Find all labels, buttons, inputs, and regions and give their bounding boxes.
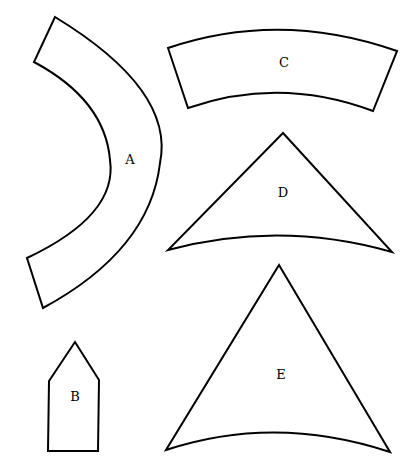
shape-a-label: A	[124, 152, 135, 167]
shape-e-label: E	[276, 367, 286, 382]
shape-a-outline	[27, 17, 162, 308]
shapes-diagram: A C D E B	[0, 0, 419, 473]
shape-b: B	[48, 342, 99, 451]
shape-d: D	[168, 133, 392, 252]
shape-e: E	[166, 265, 390, 452]
shape-c: C	[168, 30, 397, 111]
shape-a: A	[27, 17, 162, 308]
shape-c-outline	[168, 30, 397, 111]
shape-d-label: D	[278, 185, 288, 200]
shape-e-outline	[166, 265, 390, 452]
shape-b-label: B	[70, 389, 80, 404]
shape-c-label: C	[279, 55, 289, 70]
